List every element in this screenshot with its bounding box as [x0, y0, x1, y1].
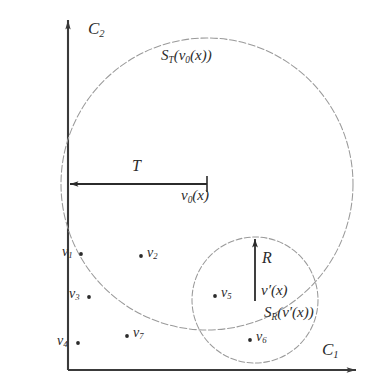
y-axis-label: C2	[88, 20, 105, 39]
small-ball-label-arg: (v′(x))	[277, 304, 314, 320]
point-label-v1: v1	[62, 245, 73, 260]
radius-T-endpoint-label-tail: (x)	[192, 187, 209, 203]
point-dot-v4	[76, 341, 80, 345]
large-ball-label-arg-tail: (x))	[190, 47, 212, 63]
point-dot-v1	[79, 252, 83, 256]
point-dot-v2	[139, 254, 143, 258]
point-label-v5-sub: 5	[227, 291, 231, 301]
radius-T-endpoint-label: v0(x)	[181, 188, 209, 205]
point-label-v2-sub: 2	[153, 251, 157, 261]
x-axis-label: C1	[322, 341, 339, 360]
point-label-v5: v5	[221, 286, 232, 301]
point-label-v3: v3	[69, 287, 80, 302]
point-dot-v7	[125, 334, 129, 338]
radius-T-endpoint-label-main: v	[181, 187, 188, 203]
small-ball-label-main: S	[264, 304, 272, 320]
figure-canvas: C2 C1 ST(v0(x)) SR(v′(x)) T v0(x) R v′(x…	[0, 0, 365, 390]
large-ball-label-main: S	[161, 47, 169, 63]
radius-T-label: T	[132, 158, 141, 174]
point-label-v7: v7	[133, 326, 144, 341]
large-ball-label: ST(v0(x))	[161, 48, 212, 65]
point-label-v6-sub: 6	[262, 335, 266, 345]
small-ball-label: SR(v′(x))	[264, 305, 314, 322]
y-axis-label-sub: 2	[99, 28, 104, 39]
point-label-v7-sub: 7	[139, 331, 143, 341]
point-dot-v5	[213, 294, 217, 298]
radius-R-label: R	[262, 250, 272, 266]
radius-R-endpoint-label: v′(x)	[261, 283, 288, 298]
point-label-v3-sub: 3	[75, 292, 79, 302]
large-ball-label-arg: (v	[174, 47, 186, 63]
point-label-v2: v2	[147, 246, 158, 261]
point-label-v6: v6	[256, 330, 267, 345]
point-dot-v6	[248, 338, 252, 342]
y-axis-label-main: C	[88, 19, 99, 38]
x-axis-label-main: C	[322, 340, 333, 359]
point-label-v1-sub: 1	[68, 250, 72, 260]
x-axis-label-sub: 1	[333, 349, 338, 360]
point-label-v4-sub: 4	[63, 339, 67, 349]
point-label-v4: v4	[57, 334, 68, 349]
point-dot-v3	[87, 295, 91, 299]
